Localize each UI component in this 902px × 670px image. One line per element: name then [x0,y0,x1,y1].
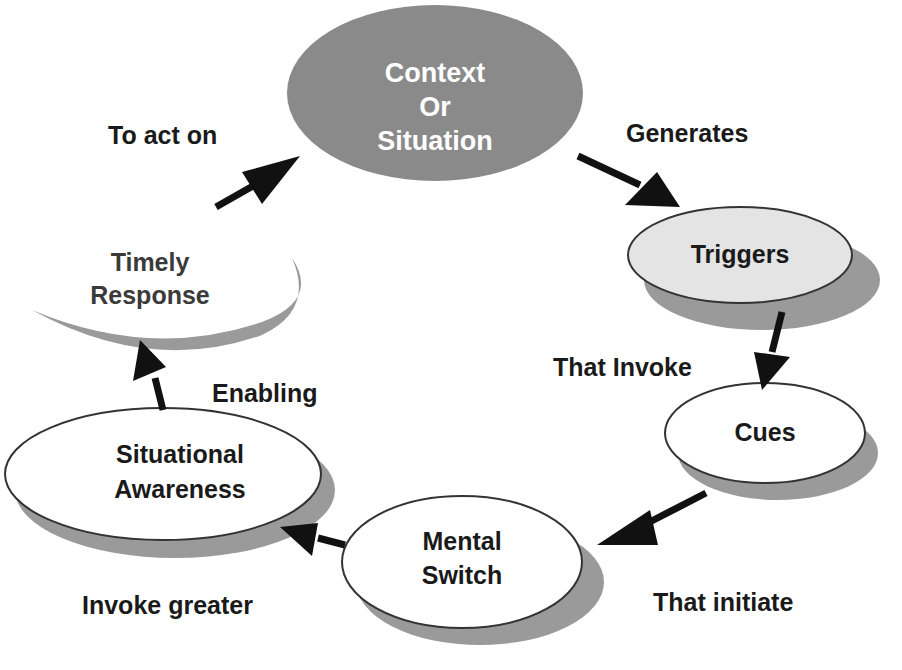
node-context-line1: Context [385,58,486,88]
arrow-context-to-triggers [578,156,680,207]
arrow-awareness-to-response [133,340,166,410]
node-timely-response-line1: Timely [111,248,190,276]
node-context-line2: Or [419,92,451,122]
edge-label-enabling: Enabling [212,379,318,407]
node-timely-response-line2: Response [90,281,210,309]
node-situational-awareness-line1: Situational [116,440,244,468]
node-context-line3: Situation [377,126,493,156]
node-triggers: Triggers [628,207,880,330]
edge-label-generates: Generates [626,119,748,147]
node-mental-switch-line2: Switch [422,561,503,589]
node-triggers-label: Triggers [691,240,790,268]
arrow-mental-switch-to-awareness [280,523,345,556]
edge-label-to-act-on: To act on [108,121,217,149]
node-situational-awareness: Situational Awareness [5,408,335,558]
edge-label-that-invoke: That Invoke [553,353,692,381]
node-situational-awareness-line2: Awareness [114,475,246,503]
edge-label-invoke-greater: Invoke greater [82,591,253,619]
arrow-response-to-context [216,156,300,207]
node-cues-label: Cues [734,418,795,446]
node-cues: Cues [665,383,878,500]
node-mental-switch-line1: Mental [422,527,501,555]
edge-label-that-initiate: That initiate [653,588,793,616]
node-timely-response: Timely Response [32,248,301,350]
situational-awareness-cycle-diagram: Context Or Situation Triggers Cues Menta… [0,0,902,670]
node-context-or-situation: Context Or Situation [287,5,583,181]
node-mental-switch: Mental Switch [342,496,604,645]
arrow-cues-to-mental-switch [597,493,706,545]
